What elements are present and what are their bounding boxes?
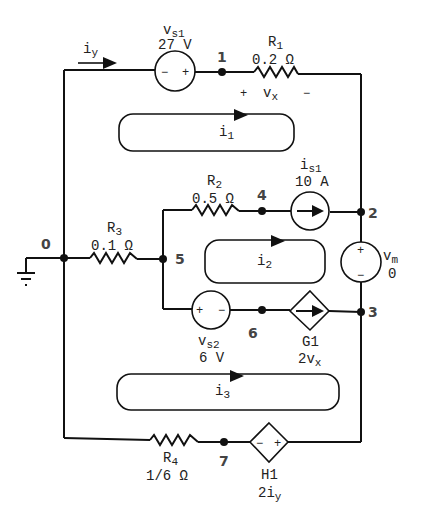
i1-label: i1 bbox=[219, 124, 234, 142]
svg-text:+: + bbox=[274, 437, 281, 451]
iy-label: iy bbox=[83, 41, 98, 59]
svg-text:−: − bbox=[161, 66, 168, 80]
node-4-label: 4 bbox=[257, 187, 267, 203]
vs2-name: vs2 bbox=[198, 333, 220, 351]
node-7-label: 7 bbox=[219, 453, 229, 469]
r2-value: 0.5 Ω bbox=[192, 191, 234, 207]
mesh-loop-i3: i3 bbox=[117, 370, 339, 410]
r1-value: 0.2 Ω bbox=[252, 52, 294, 68]
i3-label: i3 bbox=[215, 383, 230, 401]
svg-text:+: + bbox=[196, 304, 203, 318]
svg-text:+: + bbox=[357, 244, 364, 258]
voltage-source-vs1: − + bbox=[155, 51, 195, 91]
resistor-r3 bbox=[90, 253, 137, 263]
i2-label: i2 bbox=[257, 253, 272, 271]
arrow-right-icon bbox=[234, 109, 248, 121]
iy-current: iy bbox=[78, 41, 117, 69]
node-2-dot bbox=[357, 208, 365, 216]
svg-text:−: − bbox=[218, 304, 225, 318]
r2-name: R2 bbox=[207, 173, 222, 191]
node-7-dot bbox=[220, 438, 228, 446]
vx-plus: + bbox=[240, 87, 247, 101]
is1-value: 10 A bbox=[295, 174, 329, 190]
arrow-right-icon bbox=[271, 235, 285, 247]
node-0-label: 0 bbox=[41, 236, 51, 252]
r1-name: R1 bbox=[268, 34, 283, 52]
vm-name: vm bbox=[383, 248, 398, 266]
arrow-right-icon bbox=[103, 57, 117, 69]
node-6-label: 6 bbox=[248, 325, 258, 341]
h1-gain: 2iy bbox=[258, 485, 282, 503]
resistor-r4 bbox=[150, 435, 198, 445]
mesh-loop-i2: i2 bbox=[205, 235, 325, 283]
dependent-current-source-g1 bbox=[290, 291, 329, 330]
circuit-diagram: − + + − + − − + 0 1 2 3 4 5 6 7 bbox=[0, 0, 423, 513]
svg-text:−: − bbox=[357, 269, 364, 283]
vs1-value: 27 V bbox=[158, 37, 192, 53]
node-3-label: 3 bbox=[368, 304, 378, 320]
current-source-is1 bbox=[291, 192, 329, 230]
is1-name: is1 bbox=[300, 157, 322, 175]
node-5-dot bbox=[159, 255, 167, 263]
wires bbox=[17, 70, 361, 442]
svg-text:+: + bbox=[182, 66, 189, 80]
node-5-label: 5 bbox=[175, 251, 185, 267]
r3-value: 0.1 Ω bbox=[91, 238, 133, 254]
dependent-voltage-source-h1: − + bbox=[250, 423, 288, 462]
node-1-dot bbox=[218, 68, 226, 76]
r3-name: R3 bbox=[107, 220, 122, 238]
node-2-label: 2 bbox=[368, 205, 378, 221]
r4-name: R4 bbox=[163, 450, 178, 468]
vm-value: 0 bbox=[388, 266, 396, 282]
node-0-dot bbox=[60, 254, 68, 262]
vx-minus: − bbox=[303, 87, 310, 101]
svg-text:−: − bbox=[256, 437, 263, 451]
node-6-dot bbox=[258, 306, 266, 314]
node-4-dot bbox=[258, 207, 266, 215]
voltage-source-vs2: + − bbox=[192, 291, 230, 329]
node-1-label: 1 bbox=[217, 49, 227, 65]
node-3-dot bbox=[357, 308, 365, 316]
vs2-value: 6 V bbox=[199, 350, 225, 366]
h1-name: H1 bbox=[261, 467, 278, 483]
voltage-source-vm: + − bbox=[341, 242, 381, 283]
vx-label: vx bbox=[263, 85, 278, 103]
g1-name: G1 bbox=[302, 334, 319, 350]
arrow-right-icon bbox=[230, 370, 244, 382]
r4-value: 1/6 Ω bbox=[146, 468, 188, 484]
mesh-loop-i1: i1 bbox=[119, 109, 294, 151]
resistor-r1 bbox=[254, 67, 298, 77]
g1-gain: 2vx bbox=[298, 351, 322, 369]
